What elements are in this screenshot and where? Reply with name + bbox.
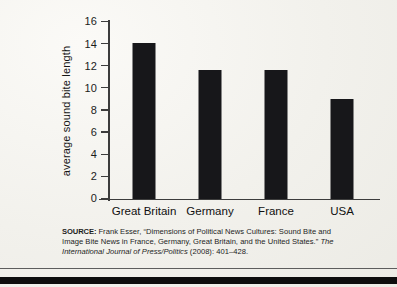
x-axis-category-label: Great Britain (112, 206, 177, 218)
y-axis-tick: 8 (101, 109, 108, 110)
y-axis-tick: 16 (101, 21, 108, 22)
y-axis-tick: 14 (101, 43, 108, 44)
bar (265, 70, 288, 199)
bar-group: USA (309, 22, 375, 199)
y-axis-tick: 12 (101, 65, 108, 66)
page-divider-thin (0, 268, 397, 269)
source-kicker: SOURCE: (62, 227, 96, 236)
y-axis-tick-label: 2 (91, 171, 97, 182)
y-axis-tick: 10 (101, 87, 108, 88)
y-axis-tick: 6 (101, 131, 108, 132)
y-axis-tick-label: 10 (85, 82, 97, 93)
y-axis-title: average sound bite length (58, 22, 74, 199)
bar-group: France (243, 22, 309, 199)
source-caption: SOURCE: Frank Esser, “Dimensions of Poli… (62, 227, 354, 257)
y-axis-tick-label: 8 (91, 104, 97, 115)
y-axis-tick: 4 (101, 154, 108, 155)
bar-group: Germany (177, 22, 243, 199)
y-axis-tick: 0 (101, 198, 108, 199)
source-text-after: (2008): 401–428. (188, 247, 248, 256)
y-axis-tick-label: 6 (91, 127, 97, 138)
bar-series: Great BritainGermanyFranceUSA (108, 22, 380, 199)
bar-group: Great Britain (111, 22, 177, 199)
page-divider-thick (0, 277, 397, 284)
source-text-before: Frank Esser, “Dimensions of Political Ne… (62, 227, 331, 246)
x-axis-category-label: USA (330, 206, 354, 218)
bar (331, 99, 354, 199)
y-axis-tick: 2 (101, 176, 108, 177)
bar (133, 43, 156, 199)
x-axis-category-label: France (258, 206, 294, 218)
y-axis-title-text: average sound bite length (60, 45, 72, 175)
y-axis-tick-label: 12 (85, 60, 97, 71)
y-axis-tick-label: 0 (91, 193, 97, 204)
y-axis-tick-label: 4 (91, 149, 97, 160)
x-axis-category-label: Germany (186, 206, 233, 218)
plot-area: 0246810121416 Great BritainGermanyFrance… (108, 22, 380, 199)
bar (199, 70, 222, 199)
y-axis-tick-label: 14 (85, 38, 97, 49)
y-axis-tick-label: 16 (85, 16, 97, 27)
